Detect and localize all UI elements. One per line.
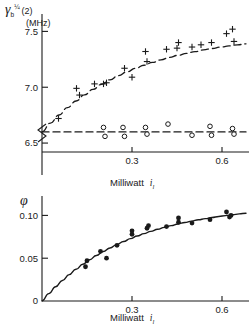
- gamma-superscript: ¼: [14, 3, 20, 10]
- top-x-tick-label: 0.3: [125, 155, 138, 166]
- top-circle-markers: [101, 122, 236, 139]
- axis-break-icon: [38, 124, 46, 142]
- data-point-plus: [208, 39, 214, 45]
- data-point-circle: [143, 125, 148, 130]
- top-plus-markers: [55, 26, 237, 122]
- bottom-chart-svg: 00.050.10 0.30.6 φ Milliwattil: [0, 186, 251, 326]
- top-y-axis-title: γb¼(2): [5, 2, 33, 18]
- data-point-filled: [85, 258, 90, 263]
- data-point-plus: [129, 74, 135, 80]
- data-point-plus: [223, 30, 229, 36]
- bottom-y-ticks: 00.050.10: [20, 210, 49, 307]
- bottom-filled-markers: [83, 210, 233, 270]
- top-y-axis-order: (2): [22, 6, 33, 16]
- data-point-plus: [142, 48, 148, 54]
- bottom-chart-panel: 00.050.10 0.30.6 φ Milliwattil: [0, 186, 251, 326]
- data-point-plus: [121, 65, 127, 71]
- data-point-circle: [145, 132, 150, 137]
- top-x-tick-label: 0.6: [215, 155, 228, 166]
- top-chart-svg: 6.57.07.5 0.30.6 γb¼(2) (MHz) Milliwatti…: [0, 0, 251, 190]
- figure-container: 6.57.07.5 0.30.6 γb¼(2) (MHz) Milliwatti…: [0, 0, 251, 326]
- bottom-x-tick-label: 0.6: [215, 304, 228, 315]
- top-y-tick-label: 7.0: [25, 82, 38, 93]
- data-point-plus: [163, 46, 169, 52]
- data-point-filled: [208, 217, 213, 222]
- top-upper-fit-line: [42, 44, 246, 132]
- data-point-filled: [146, 223, 151, 228]
- data-point-filled: [98, 249, 103, 254]
- bottom-y-tick-label: 0.10: [20, 210, 39, 221]
- top-x-ticks: 0.30.6: [125, 147, 228, 166]
- data-point-circle: [232, 132, 237, 137]
- data-point-circle: [121, 125, 126, 130]
- data-point-circle: [122, 134, 127, 139]
- data-point-filled: [115, 243, 120, 248]
- data-point-filled: [176, 220, 181, 225]
- top-y-axis-unit: (MHz): [26, 18, 51, 28]
- data-point-filled: [190, 221, 195, 226]
- data-point-circle: [190, 133, 195, 138]
- bottom-y-tick-label: 0: [33, 295, 38, 306]
- data-point-circle: [101, 125, 106, 130]
- data-point-filled: [130, 228, 135, 233]
- data-point-plus: [174, 45, 180, 51]
- data-point-plus: [76, 92, 82, 98]
- data-point-circle: [166, 122, 171, 127]
- data-point-plus: [91, 81, 97, 87]
- bottom-x-axis-title: Milliwattil: [110, 312, 154, 325]
- data-point-plus: [175, 39, 181, 45]
- data-point-circle: [230, 126, 235, 131]
- data-point-circle: [208, 124, 213, 129]
- top-y-tick-label: 6.5: [25, 137, 38, 148]
- data-point-plus: [198, 42, 204, 48]
- data-point-circle: [103, 134, 108, 139]
- data-point-filled: [83, 264, 88, 269]
- gamma-subscript: b: [11, 11, 15, 18]
- bottom-x-symbol-sub: l: [152, 318, 154, 325]
- bottom-y-tick-label: 0.05: [20, 253, 39, 264]
- data-point-filled: [104, 256, 109, 261]
- data-point-plus: [229, 26, 235, 32]
- data-point-plus: [231, 38, 237, 44]
- data-point-filled: [164, 224, 169, 229]
- data-point-circle: [209, 133, 214, 138]
- top-chart-panel: 6.57.07.5 0.30.6 γb¼(2) (MHz) Milliwatti…: [0, 0, 251, 190]
- data-point-plus: [73, 85, 79, 91]
- data-point-filled: [229, 213, 234, 218]
- data-point-plus: [189, 44, 195, 50]
- bottom-fit-line: [42, 213, 246, 301]
- phi-symbol: φ: [20, 193, 28, 208]
- data-point-filled: [176, 216, 181, 221]
- data-point-filled: [224, 210, 229, 215]
